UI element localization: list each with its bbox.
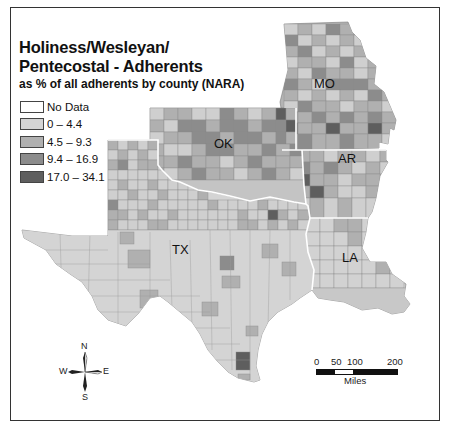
state-label-mo: MO: [314, 76, 335, 91]
legend: No Data 0 – 4.4 4.5 – 9.3 9.4 – 16.9 17.…: [20, 98, 105, 186]
scale-tick: 200: [387, 356, 403, 367]
legend-item-class-4: 17.0 – 34.1: [20, 168, 105, 185]
compass-e: E: [103, 366, 109, 376]
state-label-tx: TX: [172, 242, 189, 257]
scale-tick: 100: [347, 356, 363, 367]
legend-label: 17.0 – 34.1: [47, 171, 105, 183]
scale-tick: 0: [314, 356, 319, 367]
legend-swatch: [20, 101, 44, 113]
legend-label: 0 – 4.4: [47, 118, 82, 130]
state-label-la: LA: [342, 250, 358, 265]
legend-item-class-2: 4.5 – 9.3: [20, 133, 105, 150]
state-label-ok: OK: [214, 136, 233, 151]
compass-w: W: [59, 366, 68, 376]
legend-label: 4.5 – 9.3: [47, 136, 92, 148]
legend-item-class-3: 9.4 – 16.9: [20, 151, 105, 168]
legend-item-class-1: 0 – 4.4: [20, 116, 105, 133]
legend-item-no-data: No Data: [20, 98, 105, 115]
legend-label: No Data: [47, 101, 89, 113]
scale-units: Miles: [344, 375, 366, 386]
legend-swatch: [20, 171, 44, 183]
compass-s: S: [82, 392, 88, 402]
compass-n: N: [81, 341, 88, 351]
map-title: Holiness/Wesleyan/ Pentecostal - Adheren…: [19, 38, 203, 76]
legend-swatch: [20, 118, 44, 130]
title-line-2: Pentecostal - Adherents: [19, 57, 203, 76]
map-subtitle: as % of all adherents by county (NARA): [19, 77, 244, 91]
legend-swatch: [20, 136, 44, 148]
state-label-ar: AR: [338, 151, 356, 166]
legend-label: 9.4 – 16.9: [47, 153, 98, 165]
title-line-1: Holiness/Wesleyan/: [19, 38, 203, 57]
north-arrow: N S E W: [60, 346, 110, 402]
legend-swatch: [20, 153, 44, 165]
scale-tick: 50: [331, 356, 342, 367]
